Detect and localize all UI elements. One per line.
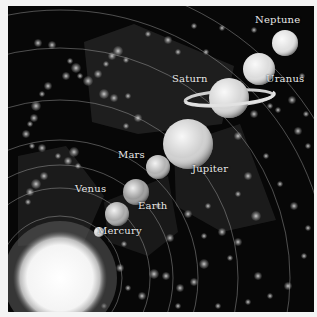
star-dot: [288, 96, 296, 104]
star-dot: [69, 147, 79, 157]
star-dot: [245, 299, 251, 305]
star-dot: [290, 202, 298, 210]
label-uranus: Uranus: [266, 73, 304, 84]
star-dot: [175, 303, 181, 309]
star-dot: [275, 107, 281, 113]
sector-region: [84, 24, 234, 134]
star-dot: [267, 293, 273, 299]
label-earth: Earth: [138, 200, 168, 211]
star-dot: [138, 292, 146, 300]
star-dot: [103, 61, 109, 67]
star-dot: [25, 199, 31, 205]
star-dot: [294, 127, 302, 135]
star-dot: [251, 27, 257, 33]
star-dot: [227, 255, 233, 261]
label-mercury: Mercury: [97, 225, 142, 236]
label-saturn: Saturn: [172, 73, 208, 84]
star-dot: [190, 278, 198, 286]
star-dot: [162, 272, 170, 280]
star-dot: [27, 121, 33, 127]
star-dot: [31, 179, 41, 189]
star-dot: [184, 210, 192, 218]
star-dot: [205, 203, 211, 209]
star-dot: [235, 191, 241, 197]
star-dot: [40, 172, 48, 180]
star-dot: [149, 269, 159, 279]
star-dot: [22, 130, 30, 138]
planet-mars: [146, 155, 170, 179]
planet-venus: [105, 202, 129, 226]
star-dot: [250, 110, 258, 118]
star-dot: [44, 82, 52, 90]
star-dot: [34, 39, 42, 47]
planet-neptune: [272, 30, 298, 56]
star-dot: [38, 144, 46, 152]
star-dot: [125, 285, 131, 291]
star-dot: [145, 31, 151, 37]
star-dot: [267, 103, 273, 109]
star-dot: [29, 143, 35, 149]
star-dot: [303, 111, 309, 117]
star-dot: [123, 123, 129, 129]
star-dot: [77, 73, 83, 79]
star-dot: [55, 153, 61, 159]
star-dot: [67, 58, 73, 64]
star-dot: [121, 241, 127, 247]
star-dot: [199, 259, 209, 269]
star-dot: [175, 49, 181, 55]
star-dot: [201, 233, 207, 239]
star-dot: [215, 303, 221, 309]
star-dot: [99, 89, 109, 99]
star-dot: [305, 225, 311, 231]
star-dot: [164, 36, 172, 44]
star-dot: [116, 264, 124, 272]
star-dot: [94, 70, 102, 78]
star-dot: [176, 284, 184, 292]
star-dot: [251, 211, 261, 221]
star-dot: [305, 143, 311, 149]
star-dot: [83, 76, 93, 86]
star-dot: [284, 282, 292, 290]
star-dot: [39, 91, 45, 97]
star-dot: [64, 157, 72, 165]
label-venus: Venus: [75, 183, 106, 194]
star-dot: [166, 234, 174, 242]
star-dot: [277, 181, 283, 187]
star-dot: [110, 94, 118, 102]
label-neptune: Neptune: [255, 14, 300, 25]
scene-canvas: [8, 6, 314, 312]
star-dot: [263, 153, 269, 159]
star-dot: [301, 253, 307, 259]
star-dot: [191, 23, 197, 29]
star-dot: [244, 172, 252, 180]
label-mars: Mars: [118, 149, 145, 160]
star-dot: [125, 93, 131, 99]
star-dot: [30, 114, 38, 122]
star-dot: [218, 228, 226, 236]
solar-system-illustration: MercuryVenusEarthMarsJupiterSaturnUranus…: [8, 6, 314, 312]
planet-jupiter: [163, 119, 213, 169]
label-jupiter: Jupiter: [192, 163, 228, 174]
star-dot: [62, 72, 70, 80]
star-dot: [71, 63, 81, 73]
star-dot: [254, 272, 262, 280]
